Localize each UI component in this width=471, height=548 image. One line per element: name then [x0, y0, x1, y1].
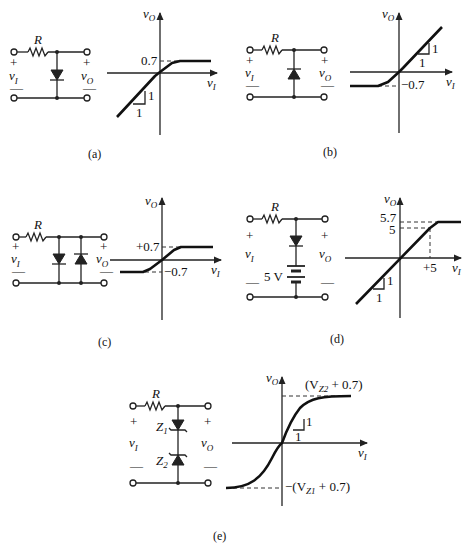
svg-text:+: +	[130, 414, 137, 429]
diode-icon	[50, 70, 64, 80]
zener-z2-icon	[169, 453, 187, 465]
zener-z1-label: Z1	[156, 419, 168, 436]
svg-text:vO: vO	[266, 370, 279, 387]
battery-icon	[287, 266, 305, 282]
svg-text:vI: vI	[207, 75, 217, 92]
svg-text:R: R	[33, 217, 42, 232]
svg-text:+5: +5	[423, 260, 437, 275]
svg-text:1: 1	[136, 105, 143, 120]
svg-text:5: 5	[389, 222, 396, 237]
circuit-c: R + vI — + vO —	[11, 217, 114, 286]
circuit-d: R + vI — + vO — 5 V	[245, 199, 335, 300]
svg-text:+: +	[246, 228, 253, 243]
panel-c: R + vI — + vO — vO vI +0.7 −0.7 (c)	[11, 193, 221, 349]
svg-text:vO: vO	[201, 435, 214, 453]
lower-clip-label: −(VZ1 + 0.7)	[285, 479, 350, 496]
transfer-curve	[356, 222, 461, 304]
svg-text:vI: vI	[211, 262, 221, 279]
circuit-a: R + vI — + vO —	[9, 32, 97, 101]
svg-text:vI: vI	[129, 435, 139, 453]
svg-text:—: —	[203, 458, 218, 473]
svg-text:R: R	[270, 199, 279, 214]
svg-text:—: —	[99, 263, 114, 278]
resistor-icon	[26, 233, 46, 241]
svg-text:vI: vI	[245, 246, 255, 264]
transfer-curve	[350, 27, 442, 86]
svg-text:R: R	[151, 386, 160, 401]
svg-text:—: —	[82, 80, 97, 95]
upper-clip-label: (VZ2 + 0.7)	[305, 377, 363, 394]
svg-text:−0.7: −0.7	[401, 77, 425, 92]
svg-text:R: R	[270, 30, 279, 45]
svg-text:—: —	[245, 274, 260, 289]
resistor-icon	[262, 46, 282, 54]
caption-d: (d)	[330, 332, 344, 346]
clip-level-label: 0.7	[141, 53, 158, 68]
transfer-plot-b: vO vI −0.7 1 1	[350, 6, 456, 133]
panel-e: R + vI — + vO — Z1 Z2 vO vI (VZ2 + 0.7) …	[129, 370, 368, 543]
svg-text:+0.7: +0.7	[136, 239, 160, 254]
svg-text:vO: vO	[143, 6, 156, 23]
diode-down-icon	[52, 254, 66, 264]
svg-text:1: 1	[432, 41, 439, 56]
caption-b: (b)	[323, 145, 337, 159]
svg-text:—: —	[11, 263, 26, 278]
svg-text:vI: vI	[358, 445, 368, 462]
diode-up-icon	[74, 254, 88, 264]
transfer-curve	[226, 396, 351, 488]
svg-text:−0.7: −0.7	[164, 264, 188, 279]
svg-text:—: —	[245, 77, 260, 92]
svg-text:vO: vO	[384, 191, 397, 208]
svg-text:1: 1	[376, 290, 383, 305]
svg-text:vO: vO	[319, 246, 332, 264]
svg-text:—: —	[320, 77, 335, 92]
svg-text:—: —	[129, 458, 144, 473]
diode-icon	[289, 236, 303, 246]
caption-c: (c)	[98, 335, 111, 349]
resistor-icon	[262, 215, 282, 223]
svg-text:vI: vI	[446, 74, 456, 91]
diode-icon	[287, 69, 301, 79]
transfer-plot-d: vO vI 5.7 5 +5 1 1	[345, 191, 462, 318]
panel-a: R + vI — + vO — vO vI 0.7 1 1 (a)	[9, 6, 217, 161]
svg-text:1: 1	[295, 429, 302, 444]
resistor-icon	[28, 48, 48, 56]
svg-text:1: 1	[148, 88, 155, 103]
svg-text:+: +	[204, 414, 211, 429]
svg-text:1: 1	[387, 273, 394, 288]
svg-text:vO: vO	[145, 193, 158, 210]
svg-text:vI: vI	[452, 260, 462, 277]
svg-text:1: 1	[419, 55, 426, 70]
battery-label: 5 V	[264, 269, 284, 284]
caption-e: (e)	[213, 529, 226, 543]
svg-text:+: +	[321, 228, 328, 243]
panel-d: R + vI — + vO — 5 V vO vI 5.7 5 +5 1 1 (…	[245, 191, 462, 346]
svg-text:—: —	[9, 80, 24, 95]
transfer-plot-e: vO vI (VZ2 + 0.7) −(VZ1 + 0.7) 1 1	[226, 370, 368, 506]
svg-text:vO: vO	[382, 6, 395, 23]
zener-z2-label: Z2	[156, 453, 168, 470]
circuit-b: R + vI — + vO —	[245, 30, 335, 100]
diode-limiter-figure: R + vI — + vO — vO vI 0.7 1 1 (a)	[0, 0, 471, 548]
svg-text:1: 1	[306, 414, 313, 429]
svg-text:—: —	[320, 274, 335, 289]
resistor-label: R	[33, 32, 42, 47]
transfer-plot-a: vO vI 0.7 1 1	[107, 6, 217, 135]
transfer-plot-c: vO vI +0.7 −0.7	[110, 193, 221, 320]
circuit-e: R + vI — + vO — Z1 Z2	[129, 386, 218, 486]
transfer-curve	[117, 61, 211, 117]
resistor-icon	[145, 402, 165, 410]
panel-b: R + vI — + vO — vO vI −0.7 1 1 (b)	[245, 6, 456, 159]
caption-a: (a)	[88, 147, 101, 161]
